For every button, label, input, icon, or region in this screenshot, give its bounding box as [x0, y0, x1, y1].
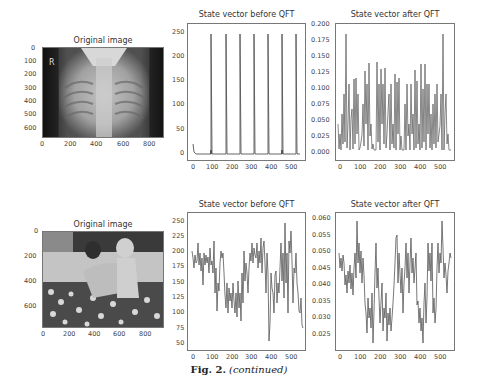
xtick: 500 [285, 353, 297, 361]
ytick: 400 [24, 97, 36, 105]
ytick: 50 [176, 339, 184, 347]
ytick: 200 [24, 70, 36, 78]
figure-label: Fig. 2. [191, 364, 226, 375]
ytick: 225 [172, 232, 184, 240]
xtick: 0 [191, 163, 195, 171]
ytick: 400 [24, 277, 36, 285]
xtick: 300 [245, 163, 257, 171]
ytick: 0.200 [311, 20, 330, 28]
ytick: 0.100 [311, 84, 330, 92]
image-title: Original image [42, 220, 164, 229]
ytick: 0.025 [311, 132, 330, 140]
xtick: 400 [414, 353, 426, 361]
line-series [188, 24, 305, 160]
ytick: 0.055 [312, 231, 331, 239]
ytick: 0.025 [312, 330, 331, 338]
ytick: 200 [172, 52, 184, 60]
xtick: 200 [226, 353, 238, 361]
ytick: 0.075 [311, 100, 330, 108]
ytick: 50 [176, 125, 184, 133]
xtick: 200 [374, 353, 386, 361]
ytick: 250 [172, 28, 184, 36]
image-title: Original image [42, 36, 164, 45]
painting-image [42, 231, 164, 328]
xtick: 0 [338, 163, 342, 171]
ytick: 0.060 [312, 214, 331, 222]
ytick: 600 [24, 124, 36, 132]
xtick: 800 [143, 140, 155, 148]
ytick: 0.150 [311, 52, 330, 60]
line-series [188, 213, 305, 350]
xtick: 500 [434, 353, 446, 361]
xtick: 300 [394, 353, 406, 361]
xtick: 0 [40, 140, 44, 148]
ytick: 0.000 [311, 148, 330, 156]
xtick: 400 [265, 353, 277, 361]
after-qft-plot-2 [335, 212, 455, 351]
xtick: 500 [434, 163, 446, 171]
ytick: 200 [172, 247, 184, 255]
ytick: 100 [172, 308, 184, 316]
xtick: 500 [285, 163, 297, 171]
painting-graphic [43, 232, 164, 328]
figure-note: (continued) [229, 364, 287, 375]
xtick: 300 [245, 353, 257, 361]
xtick: 200 [226, 163, 238, 171]
ytick: 100 [172, 100, 184, 108]
xtick: 0 [338, 353, 342, 361]
xtick: 400 [414, 163, 426, 171]
xtick: 400 [90, 140, 102, 148]
ytick: 500 [24, 110, 36, 118]
ytick: 150 [172, 278, 184, 286]
ytick: 175 [172, 262, 184, 270]
ytick: 125 [172, 293, 184, 301]
chart-title: State vector before QFT [187, 10, 306, 19]
after-qft-plot-1 [335, 23, 455, 161]
xtick: 600 [113, 330, 125, 338]
chart-title: State vector after QFT [335, 200, 455, 209]
xtick: 600 [117, 140, 129, 148]
xtick: 0 [41, 330, 45, 338]
ytick: 0.030 [312, 313, 331, 321]
ytick: 200 [24, 252, 36, 260]
figure-caption: Fig. 2. (continued) [0, 364, 478, 375]
ytick: 0 [31, 44, 35, 52]
chart-title: State vector after QFT [335, 10, 455, 19]
xtick: 300 [394, 163, 406, 171]
ytick: 0 [180, 149, 184, 157]
ytick: 0 [34, 227, 38, 235]
xtick: 0 [191, 353, 195, 361]
xtick: 200 [374, 163, 386, 171]
ytick: 0.045 [312, 264, 331, 272]
ytick: 100 [24, 57, 36, 65]
xray-graphic: R [43, 48, 164, 138]
ytick: 150 [172, 76, 184, 84]
before-qft-plot-2 [187, 212, 306, 351]
line-series [336, 213, 454, 350]
before-qft-plot-1 [187, 23, 306, 161]
ytick: 0.040 [312, 280, 331, 288]
ytick: 0.050 [311, 116, 330, 124]
xtick: 100 [206, 353, 218, 361]
ytick: 600 [24, 302, 36, 310]
xtick: 100 [354, 163, 366, 171]
xtick: 800 [139, 330, 151, 338]
ytick: 75 [176, 324, 184, 332]
xtick: 400 [88, 330, 100, 338]
xray-image: R [42, 47, 164, 138]
xtick: 400 [265, 163, 277, 171]
ytick: 0.035 [312, 297, 331, 305]
ytick: 0.125 [311, 68, 330, 76]
ytick: 0.050 [312, 247, 331, 255]
ytick: 0.175 [311, 36, 330, 44]
xtick: 100 [206, 163, 218, 171]
chart-title: State vector before QFT [187, 200, 306, 209]
xtick: 200 [63, 330, 75, 338]
line-series [336, 24, 454, 160]
xtick: 200 [64, 140, 76, 148]
ytick: 250 [172, 217, 184, 225]
marker-label: R [49, 58, 55, 67]
xtick: 100 [354, 353, 366, 361]
ytick: 300 [24, 84, 36, 92]
